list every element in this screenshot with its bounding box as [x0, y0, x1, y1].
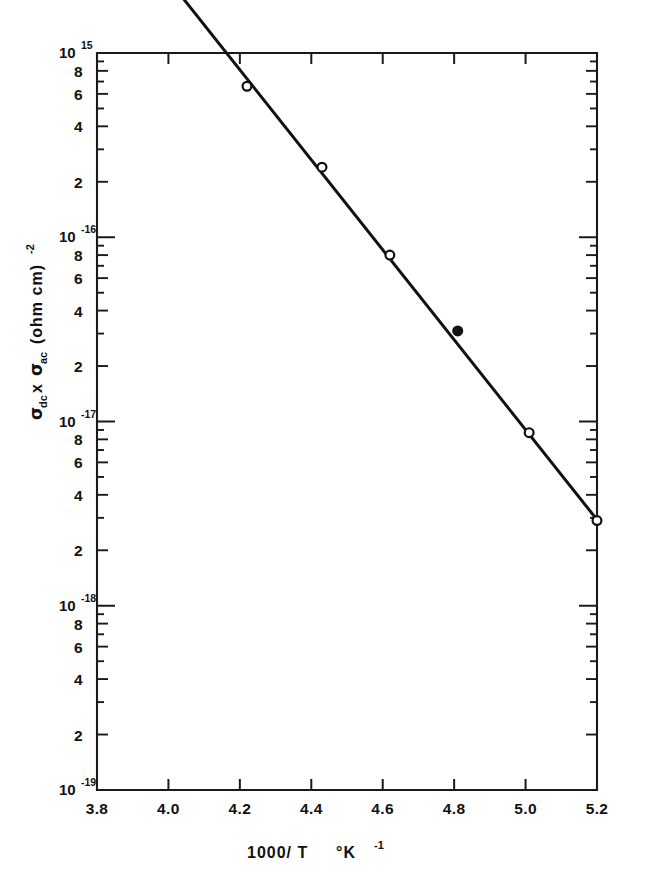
y-decade-mantissa: 10 — [59, 228, 76, 245]
y-decade-mantissa: 10 — [59, 781, 76, 798]
y-decade-label: 10-17 — [59, 408, 96, 430]
y-minor-label: 4 — [74, 118, 83, 135]
y-decade-exponent: -18 — [81, 592, 96, 604]
data-point — [243, 82, 252, 91]
y-axis-title: σ dc x σ ac (ohm cm) -2 — [24, 244, 49, 420]
y-axis-title-sigma-dc-sub: dc — [37, 395, 49, 408]
x-tick-label: 5.0 — [514, 800, 537, 817]
x-axis-title-exponent: -1 — [374, 839, 384, 851]
data-series — [93, 0, 602, 525]
y-minor-label: 8 — [74, 247, 83, 264]
y-minor-label: 6 — [74, 639, 83, 656]
y-minor-label: 8 — [74, 431, 83, 448]
fit-line — [95, 0, 599, 522]
x-tick-label: 3.8 — [86, 800, 109, 817]
y-decade-mantissa: 10 — [59, 597, 76, 614]
data-point — [453, 327, 462, 336]
y-minor-label: 2 — [74, 727, 83, 744]
x-axis-title: 1000/ T °K -1 — [247, 839, 384, 861]
y-decade-label: 10-19 — [59, 776, 96, 798]
y-axis-title-units-exponent: -2 — [24, 244, 36, 254]
figure-panel: 3.84.04.24.44.64.85.05.2 101510-1610-171… — [0, 0, 651, 887]
y-axis-title-sigma-ac-sub: ac — [37, 352, 49, 364]
y-axis-title-units: (ohm cm) — [28, 264, 45, 344]
data-point — [318, 163, 327, 172]
y-minor-label: 6 — [74, 270, 83, 287]
y-decade-mantissa: 10 — [59, 413, 76, 430]
y-minor-label: 8 — [74, 616, 83, 633]
y-decade-exponent: 15 — [81, 39, 93, 51]
y-axis-ticks — [97, 53, 597, 790]
data-markers — [93, 0, 602, 525]
y-minor-label: 2 — [74, 174, 83, 191]
y-decade-exponent: -19 — [81, 776, 96, 788]
y-minor-label: 4 — [74, 671, 83, 688]
x-tick-label: 4.6 — [371, 800, 394, 817]
y-decade-label: 10-16 — [59, 223, 96, 245]
x-axis-ticks — [168, 53, 525, 790]
y-minor-label: 8 — [74, 63, 83, 80]
x-tick-label: 4.4 — [300, 800, 323, 817]
y-minor-label: 2 — [74, 542, 83, 559]
arrhenius-plot: 3.84.04.24.44.64.85.05.2 101510-1610-171… — [0, 0, 651, 887]
y-minor-label: 6 — [74, 86, 83, 103]
y-decade-mantissa: 10 — [59, 44, 76, 61]
x-tick-label: 4.0 — [157, 800, 180, 817]
y-axis-minor-labels: 2468246824682468 — [74, 63, 83, 744]
y-decade-label: 1015 — [59, 39, 93, 61]
x-axis-title-main: 1000/ T — [247, 844, 308, 861]
y-minor-label: 2 — [74, 358, 83, 375]
data-point — [525, 428, 534, 437]
x-tick-label: 4.8 — [443, 800, 466, 817]
x-axis-title-degk: °K — [336, 844, 356, 861]
y-decade-exponent: -16 — [81, 223, 96, 235]
x-tick-label: 5.2 — [586, 800, 609, 817]
x-tick-label: 4.2 — [228, 800, 251, 817]
data-point — [593, 516, 602, 525]
y-minor-label: 4 — [74, 487, 83, 504]
data-point — [385, 251, 394, 260]
plot-frame — [97, 53, 597, 790]
y-minor-label: 6 — [74, 454, 83, 471]
y-minor-label: 4 — [74, 303, 83, 320]
y-axis-title-times: x — [28, 383, 45, 393]
y-decade-exponent: -17 — [81, 408, 96, 420]
y-decade-label: 10-18 — [59, 592, 96, 614]
x-axis-tick-labels: 3.84.04.24.44.64.85.05.2 — [86, 800, 609, 817]
